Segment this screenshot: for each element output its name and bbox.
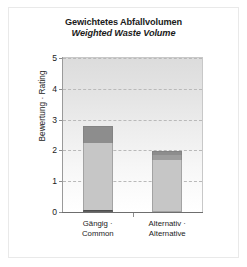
x-axis-tick-mark [133,213,134,217]
bar[interactable] [83,126,113,212]
y-axis-tick-label: 5 [17,53,57,63]
y-axis-tick-mark [59,181,62,182]
y-axis-tick-label: 4 [17,84,57,94]
y-axis-tick-label: 0 [17,207,57,217]
axis-right-spine [202,57,203,213]
gridline [63,58,202,59]
y-axis-tick-label: 3 [17,115,57,125]
y-axis-label: Bewertung · Rating [37,26,47,186]
plot-area [63,58,202,212]
y-axis-tick-label: 1 [17,176,57,186]
y-axis-tick-mark [59,89,62,90]
y-axis-tick-mark [59,212,62,213]
bar[interactable] [152,151,182,212]
x-axis-category-label: Alternativ ·Alternative [119,219,215,240]
y-axis-tick-mark [59,150,62,151]
chart-figure: Gewichtetes Abfallvolumen Weighted Waste… [0,0,247,267]
bar-outline [83,126,113,212]
category-label-line: Alternative [119,229,215,239]
y-axis-tick-label: 2 [17,145,57,155]
category-label-line: Alternativ · [119,219,215,229]
y-axis-tick-mark [59,120,62,121]
gridline [63,89,202,90]
gridline [63,120,202,121]
bar-outline [152,151,182,212]
y-axis-tick-mark [59,58,62,59]
